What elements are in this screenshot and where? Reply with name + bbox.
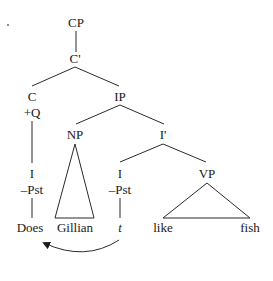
- edge-cbar-c: [32, 67, 75, 86]
- edge-cbar-ip: [75, 67, 119, 86]
- leaf-like: like: [153, 220, 173, 235]
- leaf-fish: fish: [240, 220, 260, 235]
- movement-arrow: [44, 240, 119, 252]
- edge-ip-np: [76, 105, 120, 124]
- leaf-does: Does: [17, 220, 44, 235]
- node-c: C: [28, 89, 37, 104]
- vp-triangle: [163, 183, 250, 218]
- node-i-trace-head: I: [118, 166, 122, 181]
- node-c-feature: +Q: [24, 105, 41, 120]
- leaf-trace: t: [118, 220, 122, 235]
- node-i-moved-feature: –Pst: [20, 182, 44, 197]
- node-cp: CP: [68, 15, 84, 30]
- node-i-bar: I': [160, 127, 167, 142]
- leaf-gillian: Gillian: [57, 220, 94, 235]
- np-triangle: [55, 144, 94, 218]
- node-vp: VP: [199, 166, 216, 181]
- edge-ibar-vp: [163, 144, 206, 162]
- edge-ip-ibar: [120, 105, 164, 124]
- node-i-trace-feature: –Pst: [108, 182, 132, 197]
- node-ip: IP: [114, 89, 126, 104]
- node-np: NP: [67, 127, 84, 142]
- syntax-tree-diagram: CP C' C +Q IP NP I' I –Pst I –Pst VP Doe…: [0, 0, 273, 281]
- node-c-bar: C': [69, 51, 80, 66]
- edge-ibar-i: [120, 144, 163, 162]
- stray-dot: [7, 24, 9, 26]
- node-i-moved: I: [30, 166, 34, 181]
